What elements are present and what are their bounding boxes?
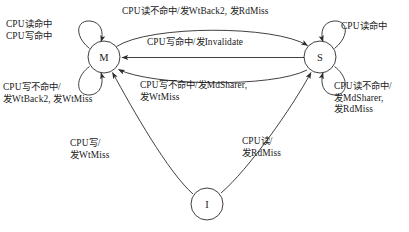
edge-label-m-self-bottom: CPU写不命中/ 发WtBack2, 发WtMiss — [3, 82, 92, 105]
state-diagram: M S I CPU读命中 CPU写命中 CPU写不命中/ 发WtBack2, 发… — [0, 0, 409, 232]
edge-label-s-self-top: CPU读命中 — [341, 21, 387, 33]
state-label-m: M — [99, 52, 109, 63]
edge-label-m-self-top: CPU读命中 CPU写命中 — [6, 19, 52, 42]
edge-label-s-to-m-writemiss: CPU写不命中/发MdSharer, 发WtMiss — [140, 80, 247, 103]
state-node-i[interactable]: I — [191, 188, 223, 220]
state-label-i: I — [205, 199, 209, 210]
edge-label-i-to-s: CPU读/ 发RdMiss — [242, 136, 281, 159]
diagram-canvas: M S I — [0, 0, 409, 232]
state-node-s[interactable]: S — [304, 41, 336, 73]
state-label-s: S — [317, 52, 323, 63]
edge-label-s-to-m-invalidate: CPU写命中/发Invalidate — [147, 37, 243, 49]
edge-label-i-to-m: CPU写/ 发WtMiss — [70, 138, 109, 161]
state-node-m[interactable]: M — [88, 41, 120, 73]
edge-label-m-to-s: CPU读不命中/发WtBack2, 发RdMiss — [122, 6, 269, 18]
edge-label-s-self-bottom: CPU读不命中/ 发MdSharer, 发RdMiss — [334, 81, 392, 116]
